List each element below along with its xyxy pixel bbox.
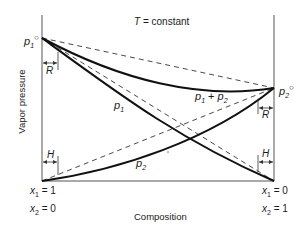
right-x2-label: x2 = 1 — [262, 204, 288, 216]
raoult-right-label: R — [262, 110, 269, 120]
right-x1-label: x1 = 0 — [262, 186, 288, 198]
total-curve-label: p1 + p2 — [195, 91, 228, 104]
p2-curve-label: p2 — [136, 158, 146, 171]
p1-pure-label: p1○ — [24, 34, 39, 49]
ideal-p2-line — [42, 88, 274, 181]
raoult-left-label: R — [46, 66, 53, 76]
left-x2-label: x2 = 0 — [30, 204, 56, 216]
henry-left-label: H — [47, 150, 54, 160]
p1-curve-label: p1 — [114, 100, 124, 113]
left-x1-label: x1 = 1 — [30, 186, 56, 198]
p2-pure-label: p2○ — [279, 84, 294, 99]
y-axis-label: Vapor pressure — [16, 67, 27, 137]
diagram-title: T = constant — [134, 17, 189, 27]
total-pressure-curve — [42, 38, 274, 91]
henry-right-label: H — [262, 149, 269, 159]
x-axis-label: Composition — [134, 212, 187, 222]
ideal-p1-line — [42, 38, 274, 181]
